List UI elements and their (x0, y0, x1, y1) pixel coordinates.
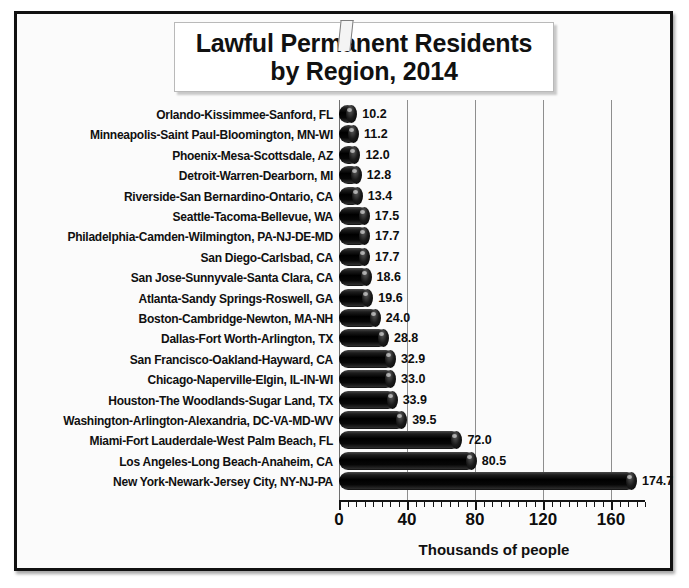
x-tick-minor (501, 502, 502, 507)
bar-value-label: 18.6 (377, 268, 401, 286)
x-axis-tick-labels: 04080120160 (339, 510, 659, 534)
x-tick-label: 40 (398, 510, 417, 530)
bar (339, 391, 397, 409)
x-tick-minor (458, 502, 459, 507)
x-tick-major (611, 502, 613, 510)
plot-area: Orlando-Kissimmee-Sanford, FLMinneapolis… (17, 100, 676, 514)
x-tick-major (339, 502, 341, 510)
bar (339, 452, 476, 470)
bar-value-label: 12.8 (367, 166, 391, 184)
category-label: Detroit-Warren-Dearborn, MI (179, 166, 333, 186)
category-label: Atlanta-Sandy Springs-Roswell, GA (139, 289, 333, 309)
x-tick-label: 120 (529, 510, 557, 530)
x-tick-label: 80 (466, 510, 485, 530)
bar (339, 350, 395, 368)
x-tick-label: 160 (597, 510, 625, 530)
category-axis-labels: Orlando-Kissimmee-Sanford, FLMinneapolis… (17, 100, 337, 514)
category-label: Chicago-Naperville-Elgin, IL-IN-WI (147, 370, 333, 390)
bar-highlight (371, 312, 376, 316)
bar-highlight (362, 271, 367, 275)
bar-value-label: 33.9 (403, 391, 427, 409)
category-label: San Francisco-Oakland-Hayward, CA (130, 350, 333, 370)
bar (339, 248, 369, 266)
bar (339, 125, 358, 143)
bar (339, 227, 369, 245)
bar-highlight (360, 251, 365, 255)
category-label: San Jose-Sunnyvale-Santa Clara, CA (131, 268, 333, 288)
x-tick-minor (390, 502, 391, 507)
x-tick-minor (569, 502, 570, 507)
bar (339, 166, 361, 184)
category-label: Miami-Fort Lauderdale-West Palm Beach, F… (89, 431, 333, 451)
x-tick-major (407, 502, 409, 510)
x-tick-minor (586, 502, 587, 507)
x-tick-minor (560, 502, 561, 507)
x-tick-minor (441, 502, 442, 507)
bar (339, 431, 461, 449)
bar-value-label: 12.0 (365, 146, 389, 164)
gridline-120 (543, 100, 544, 500)
bar-value-label: 174.7 (642, 472, 673, 490)
x-tick-minor (450, 502, 451, 507)
bar (339, 146, 359, 164)
bar-value-label: 11.2 (364, 125, 388, 143)
bar-value-label: 17.7 (375, 227, 399, 245)
chart-figure: Lawful Permanent Residents by Region, 20… (14, 11, 673, 571)
x-tick-minor (577, 502, 578, 507)
x-tick-minor (518, 502, 519, 507)
x-tick-minor (492, 502, 493, 507)
x-tick-minor (594, 502, 595, 507)
bar-value-label: 32.9 (401, 350, 425, 368)
gridline-160 (611, 100, 612, 500)
chart-title-box: Lawful Permanent Residents by Region, 20… (174, 22, 554, 92)
bar (339, 187, 362, 205)
bar-highlight (467, 455, 472, 459)
x-tick-minor (535, 502, 536, 507)
bar (339, 309, 380, 327)
bar-value-label: 10.2 (362, 105, 386, 123)
x-tick-minor (628, 502, 629, 507)
bar (339, 411, 406, 429)
bar-highlight (388, 394, 393, 398)
category-label: Riverside-San Bernardino-Ontario, CA (124, 187, 333, 207)
bar (339, 329, 388, 347)
category-label: Boston-Cambridge-Newton, MA-NH (139, 309, 333, 329)
category-label: New York-Newark-Jersey City, NY-NJ-PA (113, 472, 333, 492)
x-tick-label: 0 (334, 510, 343, 530)
bar-value-label: 13.4 (368, 187, 392, 205)
category-label: Orlando-Kissimmee-Sanford, FL (156, 105, 333, 125)
bar-highlight (363, 292, 368, 296)
category-label: Seattle-Tacoma-Bellevue, WA (173, 207, 333, 227)
x-axis-title: Thousands of people (339, 541, 649, 558)
x-tick-minor (509, 502, 510, 507)
x-axis-rule (339, 500, 649, 510)
category-label: Phoenix-Mesa-Scottsdale, AZ (172, 146, 333, 166)
bar-highlight (386, 353, 391, 357)
bar (339, 289, 372, 307)
x-tick-minor (645, 502, 646, 507)
x-tick-minor (382, 502, 383, 507)
bar (339, 472, 636, 490)
x-tick-minor (526, 502, 527, 507)
bar-value-label: 28.8 (394, 329, 418, 347)
x-tick-minor (348, 502, 349, 507)
x-tick-minor (603, 502, 604, 507)
bar-value-label: 80.5 (482, 452, 506, 470)
bar-value-label: 17.7 (375, 248, 399, 266)
bar (339, 268, 371, 286)
x-tick-minor (433, 502, 434, 507)
category-label: Dallas-Fort Worth-Arlington, TX (161, 329, 333, 349)
category-label: Philadelphia-Camden-Wilmington, PA-NJ-DE… (67, 227, 333, 247)
bar-highlight (353, 190, 358, 194)
bar (339, 105, 356, 123)
x-tick-major (475, 502, 477, 510)
bar (339, 207, 369, 225)
x-tick-minor (637, 502, 638, 507)
x-tick-minor (424, 502, 425, 507)
bar-value-label: 17.5 (375, 207, 399, 225)
x-tick-minor (467, 502, 468, 507)
bar-highlight (352, 169, 357, 173)
bar-value-label: 39.5 (412, 411, 436, 429)
bar-value-label: 72.0 (467, 431, 491, 449)
x-tick-minor (356, 502, 357, 507)
